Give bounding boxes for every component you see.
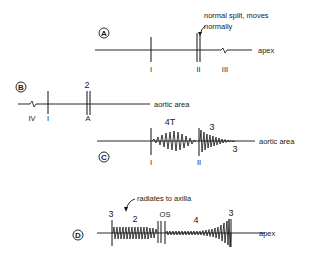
panel-a-marker: A [99, 28, 109, 38]
fourth-heart-sound-wiggle [30, 101, 36, 107]
label-s1: I [150, 65, 152, 74]
label-s3: III [222, 65, 228, 74]
panel-a: A apex I II III normal split, moves norm… [95, 11, 275, 74]
systolic-grade-label: 2 [132, 214, 137, 224]
panel-c-letter: C [101, 153, 107, 162]
grade-label: 2 [84, 80, 89, 90]
annotation-line1: normal split, moves [204, 11, 269, 20]
panel-c-marker: C [99, 152, 109, 162]
label-a: A [85, 114, 90, 123]
systolic-grade-label: 4T [165, 117, 176, 127]
label-s1: I [150, 158, 152, 167]
curved-arrow-icon [124, 199, 135, 212]
panel-a-location: apex [258, 46, 275, 55]
label-s1: I [47, 114, 49, 123]
annotation-line2: normally [204, 22, 233, 31]
arrow-icon [198, 26, 205, 36]
diastolic-grade-label: 3 [209, 122, 214, 132]
panel-d: D 3 2 OS 4 3 apex radiates to axilla [73, 194, 276, 247]
s1-grade-label: 3 [108, 209, 113, 219]
panel-d-location: apex [259, 229, 276, 238]
diastolic-grade-label: 4 [193, 215, 198, 225]
panel-b-marker: B [16, 82, 26, 92]
third-heart-sound-wiggle [221, 48, 227, 53]
label-s2: II [197, 158, 201, 167]
radiation-annotation: radiates to axilla [137, 194, 192, 203]
panel-d-marker: D [73, 230, 83, 240]
panel-a-letter: A [101, 29, 107, 38]
panel-c: C 4T 3 3 aortic area I II [97, 117, 295, 167]
diastolic-end-grade-label: 3 [232, 144, 237, 154]
heart-sound-diagram: A apex I II III normal split, moves norm… [0, 0, 311, 257]
opening-snap-label: OS [160, 210, 171, 219]
panel-b-letter: B [18, 83, 24, 92]
panel-d-letter: D [75, 231, 81, 240]
s1-end-grade-label: 3 [228, 208, 233, 218]
panel-b-location: aortic area [154, 100, 190, 109]
label-s4: IV [28, 114, 35, 123]
label-s2: II [196, 65, 200, 74]
panel-c-location: aortic area [259, 137, 295, 146]
